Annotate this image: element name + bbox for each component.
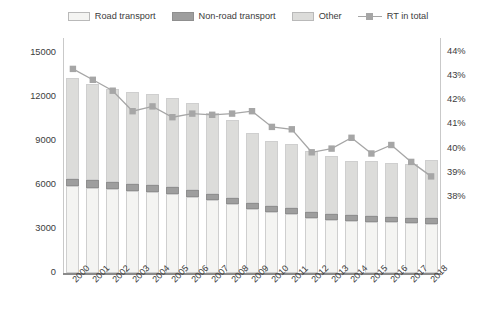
chart-legend: Road transport Non-road transport Other … xyxy=(0,12,496,21)
y-tick-label-right-44%: 44% xyxy=(447,47,466,56)
y-tick-label-left-15000: 15000 xyxy=(4,48,56,57)
rt-in-total-marker[interactable] xyxy=(229,110,235,116)
rt-in-total-marker[interactable] xyxy=(368,150,374,156)
legend-swatch-other xyxy=(292,12,314,21)
line-series-rt-in-total xyxy=(63,38,441,273)
rt-in-total-marker[interactable] xyxy=(428,173,434,179)
legend-item-road-transport[interactable]: Road transport xyxy=(68,12,156,21)
y-tick-label-right-39%: 39% xyxy=(447,168,466,177)
y-tick-label-right-43%: 43% xyxy=(447,71,466,80)
legend-label-road-transport: Road transport xyxy=(95,12,156,21)
legend-line-marker-rt-in-total xyxy=(358,12,382,21)
y-tick-label-left-0: 0 xyxy=(4,268,56,277)
rt-in-total-marker[interactable] xyxy=(70,66,76,72)
legend-item-non-road-transport[interactable]: Non-road transport xyxy=(172,12,276,21)
legend-swatch-non-road-transport xyxy=(172,12,194,21)
legend-label-other: Other xyxy=(319,12,342,21)
legend-item-other[interactable]: Other xyxy=(292,12,342,21)
y-tick-label-left-12000: 12000 xyxy=(4,92,56,101)
y-tick-label-right-38%: 38% xyxy=(447,192,466,201)
rt-in-total-marker[interactable] xyxy=(209,112,215,118)
y-tick-label-left-3000: 3000 xyxy=(4,224,56,233)
rt-in-total-marker[interactable] xyxy=(408,159,414,165)
emissions-stacked-bar-chart: Road transport Non-road transport Other … xyxy=(0,0,496,315)
rt-in-total-marker[interactable] xyxy=(328,145,334,151)
rt-in-total-marker[interactable] xyxy=(348,135,354,141)
y-tick-label-left-6000: 6000 xyxy=(4,180,56,189)
y-axis-left-ticks: 03000600090001200015000 xyxy=(0,0,56,315)
legend-label-non-road-transport: Non-road transport xyxy=(199,12,276,21)
y-tick-label-right-40%: 40% xyxy=(447,144,466,153)
y-tick-label-left-9000: 9000 xyxy=(4,136,56,145)
legend-label-rt-in-total: RT in total xyxy=(387,12,429,21)
legend-item-rt-in-total[interactable]: RT in total xyxy=(358,12,429,21)
rt-in-total-marker[interactable] xyxy=(289,126,295,132)
rt-in-total-marker[interactable] xyxy=(269,124,275,130)
rt-in-total-marker[interactable] xyxy=(169,114,175,120)
rt-in-total-polyline xyxy=(73,69,431,176)
rt-in-total-marker[interactable] xyxy=(129,108,135,114)
rt-in-total-marker[interactable] xyxy=(309,149,315,155)
rt-in-total-marker[interactable] xyxy=(110,88,116,94)
rt-in-total-line-svg xyxy=(63,38,441,273)
rt-in-total-marker[interactable] xyxy=(90,77,96,83)
rt-in-total-marker[interactable] xyxy=(388,142,394,148)
rt-in-total-marker[interactable] xyxy=(149,103,155,109)
rt-in-total-marker[interactable] xyxy=(189,110,195,116)
y-tick-label-right-41%: 41% xyxy=(447,119,466,128)
legend-swatch-road-transport xyxy=(68,12,90,21)
rt-in-total-marker[interactable] xyxy=(249,108,255,114)
y-tick-label-right-42%: 42% xyxy=(447,95,466,104)
